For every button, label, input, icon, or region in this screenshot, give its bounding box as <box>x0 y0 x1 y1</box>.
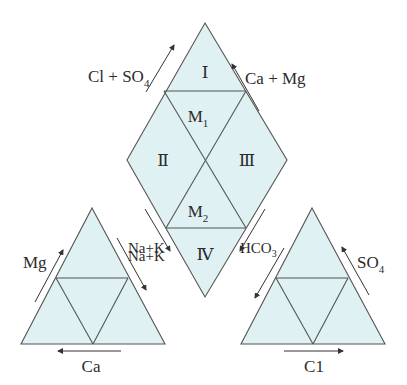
axis-label-ca-mg: Ca + Mg <box>245 69 306 88</box>
axis-label-mg: Mg <box>23 253 47 272</box>
axis-label-cl: C1 <box>304 357 324 376</box>
axis-label-ca: Ca <box>82 357 101 376</box>
region-label-III: Ⅲ <box>239 151 255 170</box>
anion-triangle: SO4 C1 <box>241 208 385 376</box>
region-label-I: Ⅰ <box>202 63 209 82</box>
axis-label-na-k-triangle: Na+K <box>128 248 165 264</box>
axis-label-so4: SO4 <box>357 253 385 275</box>
cation-triangle: Mg Na+K Ca <box>21 208 165 376</box>
cation-triangle-shape <box>21 208 165 344</box>
region-label-II: Ⅱ <box>157 151 169 170</box>
axis-label-cl-so4: Cl + SO4 <box>88 67 150 89</box>
piper-diagram: Ⅰ M1 Ⅱ Ⅲ M2 Ⅳ Cl + SO4 Ca + Mg Na+K HCO3… <box>0 0 407 385</box>
anion-triangle-shape <box>241 208 385 344</box>
region-label-IV: Ⅳ <box>197 245 215 264</box>
axis-label-hco3: HCO3 <box>240 240 277 259</box>
central-diamond: Ⅰ M1 Ⅱ Ⅲ M2 Ⅳ Cl + SO4 Ca + Mg Na+K HCO3 <box>88 23 306 297</box>
